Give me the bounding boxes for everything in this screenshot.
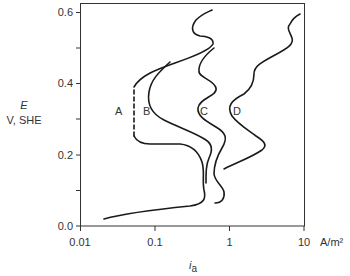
y-axis-label-symbol: E (20, 99, 28, 111)
y-tick-label: 0.2 (58, 149, 73, 161)
y-axis-label-unit: V, SHE (6, 114, 41, 126)
y-tick-label: 0.6 (58, 6, 73, 18)
curve-label-a: A (115, 105, 123, 117)
chart-canvas: 0.6 0.4 0.2 0.0 0.01 0.1 1 10 A/m² ia E … (0, 0, 350, 276)
x-axis-label: ia (189, 259, 197, 274)
curve-label-d: D (233, 105, 241, 117)
x-tick-label: 1 (226, 236, 232, 248)
y-tick-label: 0.4 (58, 77, 73, 89)
x-unit-label: A/m² (320, 236, 344, 248)
x-tick-label: 0.1 (147, 236, 162, 248)
x-tick-label: 0.01 (69, 236, 90, 248)
curve-label-c: C (200, 105, 208, 117)
curve-d (224, 14, 300, 169)
curve-label-b: B (143, 105, 150, 117)
x-tick-label: 10 (298, 236, 310, 248)
y-tick-label: 0.0 (58, 220, 73, 232)
curve-c (198, 48, 225, 203)
x-axis-ticks (81, 226, 305, 231)
